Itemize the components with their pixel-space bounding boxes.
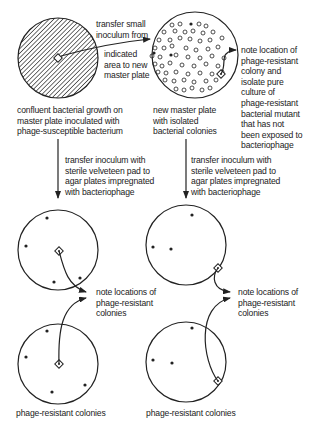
- phage-plate-left-bottom: [18, 324, 98, 404]
- phage-plate-left-top: [18, 210, 98, 290]
- label-note-locations-right: note locations of phage-resistant coloni…: [238, 287, 298, 319]
- caption-left: phage-resistant colonies: [16, 408, 106, 419]
- label-note-locations-left: note locations of phage-resistant coloni…: [96, 287, 156, 319]
- phage-plate-right-top: [146, 205, 226, 285]
- label-new-master-plate: new master plate with isolated bacterial…: [153, 105, 217, 137]
- phage-plate-right-bottom: [146, 322, 226, 402]
- caption-right: phage-resistant colonies: [146, 408, 236, 419]
- label-indicated-area: indicated area to new master plate: [104, 49, 150, 81]
- label-confluent-growth: confluent bacterial growth on master pla…: [17, 105, 123, 137]
- label-transfer-small: transfer small inoculum from: [96, 19, 148, 40]
- label-note-isolate: note location of phage-resistant colony …: [241, 45, 302, 151]
- label-transfer-right: transfer inoculum with sterile velveteen…: [191, 155, 280, 197]
- label-transfer-left: transfer inoculum with sterile velveteen…: [65, 155, 154, 197]
- master-plate: [18, 18, 98, 98]
